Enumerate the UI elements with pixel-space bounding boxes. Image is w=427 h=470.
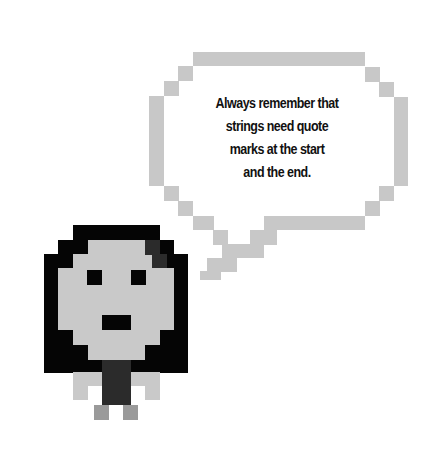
right-arm [131,372,145,386]
bubble-tail [213,230,228,245]
bubble-edge [164,81,179,96]
left-arm [88,372,102,386]
left-foot [94,405,109,420]
face [88,240,145,255]
body [102,360,131,405]
bubble-tail [193,216,214,230]
hair-clip [152,254,167,268]
left-eye [87,270,102,285]
right-arm [145,372,160,400]
bubble-edge [193,52,365,66]
bubble-edge [264,216,365,230]
bubble-edge [365,67,380,82]
bubble-tail [200,271,221,280]
bubble-edge [394,97,408,186]
speech-line: marks at the start [204,138,350,161]
right-foot [123,405,138,420]
hair-clip [145,240,160,255]
bubble-edge [379,82,394,97]
right-eye [131,270,146,285]
bubble-edge [365,201,380,216]
left-arm [73,372,88,400]
face [73,254,160,269]
bubble-edge [178,66,193,81]
bubble-tail [250,230,277,245]
bubble-edge [149,96,164,186]
bubble-tail [222,244,264,258]
bubble-edge [164,186,179,201]
speech-text: Always remember that strings need quote … [204,92,350,184]
speech-line: and the end. [204,161,350,184]
bubble-tail [207,258,237,272]
face [73,330,160,345]
bubble-edge [178,201,193,216]
speech-line: strings need quote [204,115,350,138]
bubble-edge [379,186,394,201]
speech-line: Always remember that [204,92,350,115]
face [88,345,145,360]
mouth [102,315,131,330]
hair [73,225,160,241]
